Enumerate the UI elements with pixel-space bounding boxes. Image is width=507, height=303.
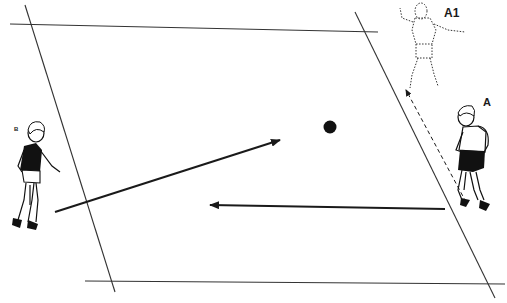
ball	[324, 121, 337, 134]
player-a-figure	[456, 106, 490, 211]
player-b-figure	[12, 122, 60, 230]
arrow-pass-from-a	[210, 205, 445, 209]
drill-diagram: A1 A B	[0, 0, 507, 303]
arrow-pass-from-b	[55, 140, 280, 212]
player-label-a1: A1	[444, 6, 459, 20]
top-line	[10, 24, 378, 32]
player-label-a: A	[483, 96, 491, 108]
player-label-b: B	[14, 126, 18, 132]
bottom-line	[85, 281, 505, 284]
field-lines	[10, 5, 505, 298]
